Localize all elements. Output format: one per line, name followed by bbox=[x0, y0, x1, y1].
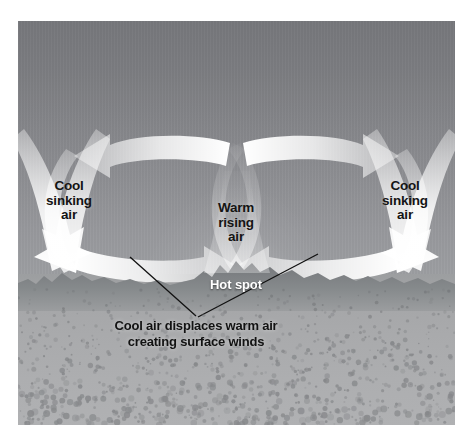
label-cool-sinking-air-right: Cool sinking air bbox=[372, 179, 438, 223]
label-warm-rising-air: Warm rising air bbox=[200, 201, 272, 245]
label-surface-winds-caption: Cool air displaces warm air creating sur… bbox=[76, 318, 316, 350]
convection-illustration: Cool sinking air Cool sinking air Warm r… bbox=[18, 21, 455, 425]
label-hot-spot: Hot spot bbox=[196, 277, 276, 292]
label-cool-sinking-air-left: Cool sinking air bbox=[36, 179, 102, 223]
figure-root: Cool sinking air Cool sinking air Warm r… bbox=[0, 0, 471, 432]
